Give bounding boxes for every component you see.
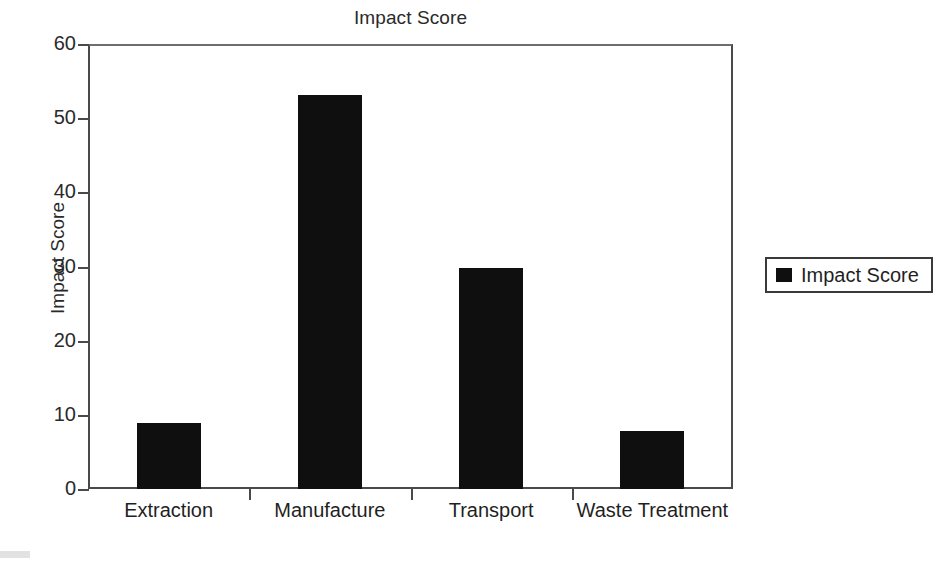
y-axis-tick-label: 10 [22,404,76,424]
bar [459,268,523,489]
bar [298,95,362,489]
y-axis-tick-mark [78,44,89,46]
x-axis-tick-label: Waste Treatment [572,497,733,523]
y-axis-tick-mark [78,192,89,194]
y-axis-tick-mark [78,341,89,343]
y-axis-tick-label: 40 [22,181,76,201]
bar [137,423,201,489]
y-axis-tick-label: 50 [22,107,76,127]
impact-score-bar-chart: Impact Score Impact Score 0102030405060 … [0,0,941,562]
chart-title: Impact Score [88,6,733,30]
legend: Impact Score [765,257,933,293]
x-axis-tick-label: Transport [411,497,572,523]
bar [620,431,684,489]
y-axis-tick-label: 20 [22,330,76,350]
y-axis-tick-mark [78,415,89,417]
scan-artifact [0,551,30,558]
x-axis-tick-label: Manufacture [249,497,410,523]
y-axis-tick-label: 0 [22,478,76,498]
x-axis-tick-label: Extraction [88,497,249,523]
y-axis-tick-mark [78,267,89,269]
y-axis-tick-label: 60 [22,33,76,53]
y-axis-tick-mark [78,489,89,491]
y-axis-tick-label: 30 [22,256,76,276]
legend-label: Impact Score [801,264,919,286]
y-axis-tick-mark [78,118,89,120]
legend-swatch-icon [776,268,792,282]
